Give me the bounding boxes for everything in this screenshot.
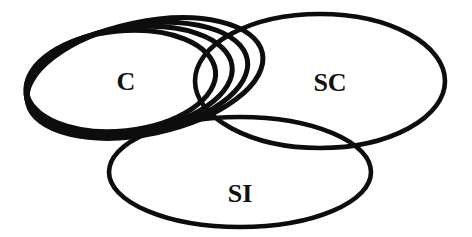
- set-label-c: C: [117, 67, 136, 96]
- set-label-sc: SC: [313, 68, 346, 97]
- set-label-si: SI: [228, 179, 253, 208]
- venn-diagram-canvas: CSCSI: [0, 0, 472, 237]
- venn-diagram-figure: CSCSI: [0, 0, 472, 237]
